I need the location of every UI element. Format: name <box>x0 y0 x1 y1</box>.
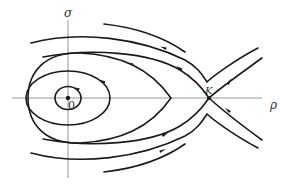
separatrix-right-up <box>209 58 262 98</box>
outer-trajectory-bottom-1-arrow-icon <box>160 149 167 153</box>
rho-axis-label: ρ <box>270 99 277 111</box>
origin-label: 0 <box>68 100 75 111</box>
sigma-axis-label: σ <box>64 7 72 19</box>
saddle-point-k <box>207 96 211 100</box>
outer-trajectory-bottom-1 <box>31 114 258 159</box>
outer-trajectory-bottom-2 <box>104 144 185 172</box>
saddle-k-label: K <box>205 86 212 96</box>
outer-trajectory-top-2 <box>104 24 185 52</box>
teardrop-orbit-arrow-icon <box>127 63 134 67</box>
outer-trajectory-top-1 <box>31 37 258 82</box>
separatrix-right-down <box>209 98 262 140</box>
phase-portrait-diagram <box>0 0 290 184</box>
